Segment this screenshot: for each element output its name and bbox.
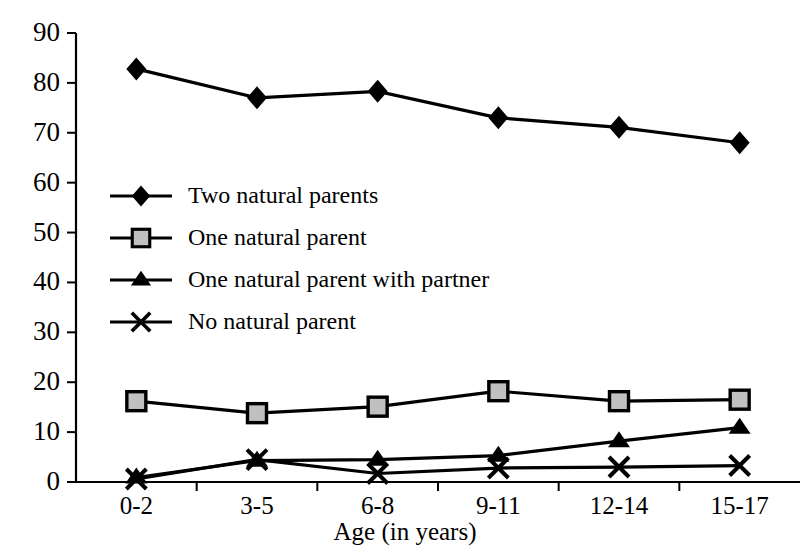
x-axis-tick-label: 0-2 [76, 493, 197, 518]
data-point-square [489, 382, 508, 401]
data-point-diamond [368, 80, 388, 103]
line-chart: 9080706050403020100 0-23-56-89-1112-1415… [0, 0, 810, 548]
x-axis-tick-label: 3-5 [197, 493, 318, 518]
y-axis-tick-label: 90 [0, 19, 60, 46]
data-point-diamond [132, 185, 150, 206]
series-line [136, 391, 739, 413]
series-2 [127, 382, 749, 423]
data-point-square [730, 390, 749, 409]
data-point-square [127, 392, 146, 411]
legend-label: No natural parent [188, 309, 356, 333]
data-point-square [248, 404, 267, 423]
y-axis-tick-label: 10 [0, 418, 60, 445]
data-point-diamond [488, 106, 508, 129]
x-axis-tick-label: 9-11 [438, 493, 559, 518]
y-axis-tick-label: 30 [0, 318, 60, 345]
data-point-square [368, 397, 387, 416]
legend-markers [110, 185, 172, 331]
chart-axes [67, 33, 800, 491]
data-point-diamond [730, 131, 750, 154]
series-line [136, 460, 739, 479]
data-point-diamond [609, 116, 629, 139]
y-axis-tick-label: 50 [0, 219, 60, 246]
y-axis-tick-label: 40 [0, 268, 60, 295]
y-axis-ticks [67, 33, 76, 482]
x-axis-title: Age (in years) [0, 519, 810, 544]
y-axis-tick-label: 70 [0, 119, 60, 146]
legend-label: One natural parent [188, 225, 367, 249]
y-axis-tick-label: 20 [0, 368, 60, 395]
data-point-square [610, 392, 629, 411]
legend-label: One natural parent with partner [188, 267, 489, 291]
data-point-diamond [126, 57, 146, 80]
data-point-diamond [247, 86, 267, 109]
x-axis-tick-label: 6-8 [317, 493, 438, 518]
x-axis-tick-label: 15-17 [679, 493, 800, 518]
data-point-triangle [729, 418, 751, 434]
series-3 [125, 418, 750, 484]
y-axis-tick-label: 60 [0, 169, 60, 196]
legend-label: Two natural parents [188, 183, 378, 207]
series-1 [126, 57, 749, 154]
x-axis-tick-label: 12-14 [559, 493, 680, 518]
y-axis-tick-label: 80 [0, 69, 60, 96]
series-line [136, 69, 739, 143]
x-axis-ticks [197, 482, 680, 491]
y-axis-tick-label: 0 [0, 468, 60, 495]
data-point-square [132, 229, 149, 246]
data-point-triangle [131, 271, 151, 286]
